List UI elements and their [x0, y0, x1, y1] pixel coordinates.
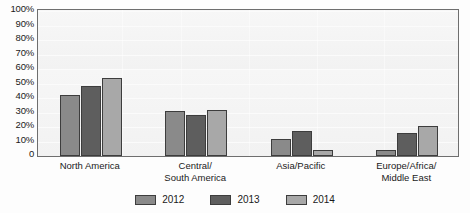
- bar-group: [376, 10, 438, 156]
- bar-group: [271, 10, 333, 156]
- plot-area: [37, 9, 459, 157]
- legend-swatch-icon: [210, 195, 231, 205]
- chart-legend: 201220132014: [0, 192, 470, 207]
- bars-layer: [38, 10, 458, 156]
- y-axis-tick-label: 90%: [0, 19, 34, 29]
- y-axis: 100%90%80%70%60%50%40%30%20%10%0: [0, 4, 34, 158]
- y-axis-tick-label: 70%: [0, 48, 34, 58]
- y-axis-tick-label: 50%: [0, 77, 34, 87]
- category-label-line: Central/: [143, 160, 249, 172]
- bar-chart: 100%90%80%70%60%50%40%30%20%10%0 North A…: [0, 0, 470, 213]
- category-label-line: Middle East: [354, 172, 460, 184]
- bar: [81, 86, 101, 156]
- category-label-line: North America: [37, 160, 143, 172]
- bar: [186, 115, 206, 156]
- bar: [102, 78, 122, 156]
- category-label-line: Europe/Africa/: [354, 160, 460, 172]
- category-label-line: South America: [143, 172, 249, 184]
- bar: [292, 131, 312, 156]
- bar: [397, 133, 417, 156]
- bar-group: [60, 10, 122, 156]
- legend-swatch-icon: [135, 195, 156, 205]
- bar: [207, 110, 227, 156]
- bar: [313, 150, 333, 156]
- x-axis-category-label: North America: [37, 160, 143, 172]
- clipped-title-remnant: [0, 0, 470, 2]
- bar-group: [165, 10, 227, 156]
- legend-label: 2013: [237, 194, 259, 205]
- legend-item[interactable]: 2014: [286, 194, 335, 205]
- y-axis-tick-label: 60%: [0, 62, 34, 72]
- x-axis-category-label: Europe/Africa/Middle East: [354, 160, 460, 183]
- y-axis-tick-label: 100%: [0, 4, 34, 14]
- y-axis-tick-label: 0: [0, 149, 34, 159]
- category-label-line: Asia/Pacific: [248, 160, 354, 172]
- y-axis-tick-label: 80%: [0, 33, 34, 43]
- bar: [271, 139, 291, 156]
- bar: [418, 126, 438, 156]
- legend-item[interactable]: 2012: [135, 194, 184, 205]
- legend-label: 2014: [313, 194, 335, 205]
- legend-item[interactable]: 2013: [210, 194, 259, 205]
- y-axis-tick-label: 10%: [0, 135, 34, 145]
- legend-swatch-icon: [286, 195, 307, 205]
- x-axis-category-label: Asia/Pacific: [248, 160, 354, 172]
- bar: [376, 150, 396, 156]
- bar: [60, 95, 80, 156]
- y-axis-tick-label: 30%: [0, 106, 34, 116]
- bar: [165, 111, 185, 156]
- y-axis-tick-label: 40%: [0, 91, 34, 101]
- y-axis-tick-label: 20%: [0, 120, 34, 130]
- x-axis-category-label: Central/South America: [143, 160, 249, 183]
- x-axis-category-labels: North AmericaCentral/South AmericaAsia/P…: [37, 160, 459, 190]
- legend-label: 2012: [162, 194, 184, 205]
